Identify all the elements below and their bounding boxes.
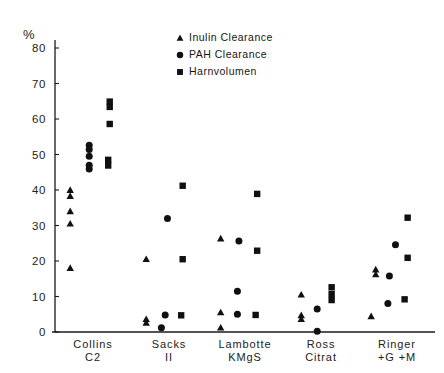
- y-tick-label: 70: [32, 78, 46, 90]
- x-axis-category-label: SacksII: [152, 338, 186, 363]
- data-point-triangle: [143, 255, 150, 262]
- data-point-square: [328, 284, 334, 290]
- series-group: [105, 98, 411, 318]
- data-point-circle: [234, 288, 241, 295]
- legend-item: Inulin Clearance: [177, 31, 273, 43]
- data-point-circle: [158, 324, 165, 331]
- category-label-line2: II: [165, 351, 173, 363]
- data-point-triangle: [217, 324, 224, 331]
- data-point-square: [179, 183, 185, 189]
- data-point-triangle: [367, 313, 374, 320]
- legend-item: Harnvolumen: [177, 65, 257, 77]
- y-tick-label: 40: [32, 184, 46, 196]
- data-point-circle: [164, 215, 171, 222]
- data-point-triangle: [67, 186, 74, 193]
- data-point-triangle: [217, 235, 224, 242]
- legend: Inulin ClearancePAH ClearanceHarnvolumen: [177, 31, 273, 77]
- data-point-square: [328, 297, 334, 303]
- data-point-square: [328, 291, 334, 297]
- legend-item: PAH Clearance: [177, 48, 267, 60]
- x-axis-category-label: CollinsC2: [73, 338, 112, 363]
- scatter-plot-figure: 01020304050607080%CollinsC2SacksIILambot…: [0, 0, 444, 373]
- category-label-line2: KMgS: [228, 351, 262, 363]
- series-group: [86, 142, 399, 335]
- data-point-square: [401, 296, 407, 302]
- y-tick-label: 50: [32, 149, 46, 161]
- category-label-line1: Ross: [307, 338, 336, 350]
- category-label-line2: C2: [85, 351, 101, 363]
- data-point-triangle: [298, 291, 305, 298]
- y-tick-label: 10: [32, 291, 46, 303]
- data-point-triangle: [67, 220, 74, 227]
- data-points: [67, 98, 411, 334]
- legend-item-label: Inulin Clearance: [189, 31, 273, 43]
- data-point-circle: [86, 166, 93, 173]
- data-point-circle: [314, 328, 321, 335]
- category-label-line2: Citrat: [305, 351, 337, 363]
- legend-marker-square: [177, 69, 183, 75]
- legend-marker-triangle: [177, 34, 184, 40]
- data-point-square: [105, 162, 111, 168]
- plot-canvas: 01020304050607080%CollinsC2SacksIILambot…: [0, 0, 444, 373]
- data-point-square: [178, 312, 184, 318]
- data-point-triangle: [67, 192, 74, 199]
- data-point-square: [179, 256, 185, 262]
- legend-item-label: Harnvolumen: [189, 65, 257, 77]
- y-axis-unit-label: %: [23, 27, 35, 42]
- data-point-circle: [392, 241, 399, 248]
- data-point-circle: [234, 311, 241, 318]
- category-label-line1: Collins: [73, 338, 112, 350]
- data-point-square: [107, 121, 113, 127]
- data-point-circle: [86, 153, 93, 160]
- x-axis-category-label: LambotteKMgS: [218, 338, 271, 363]
- data-point-square: [252, 312, 258, 318]
- data-point-square: [105, 157, 111, 163]
- data-point-square: [404, 214, 410, 220]
- data-point-square: [254, 248, 260, 254]
- x-axis-category-label: RossCitrat: [305, 338, 337, 363]
- category-label-line1: Lambotte: [218, 338, 271, 350]
- category-label-line1: Ringer: [378, 338, 416, 350]
- y-tick-label: 0: [39, 326, 46, 338]
- y-tick-label: 20: [32, 255, 46, 267]
- data-point-square: [404, 255, 410, 261]
- legend-marker-circle: [177, 52, 183, 58]
- data-point-circle: [162, 311, 169, 318]
- y-tick-label: 30: [32, 220, 46, 232]
- category-label-line1: Sacks: [152, 338, 186, 350]
- data-point-circle: [314, 305, 321, 312]
- x-axis-category-labels: CollinsC2SacksIILambotteKMgSRossCitratRi…: [73, 338, 416, 363]
- series-group: [67, 186, 380, 330]
- data-point-circle: [86, 146, 93, 153]
- y-tick-label: 60: [32, 113, 46, 125]
- axes: [52, 40, 435, 332]
- data-point-triangle: [67, 264, 74, 271]
- data-point-circle: [386, 272, 393, 279]
- data-point-triangle: [143, 319, 150, 326]
- y-tick-label: 80: [32, 42, 46, 54]
- legend-item-label: PAH Clearance: [189, 48, 267, 60]
- data-point-triangle: [217, 309, 224, 316]
- data-point-circle: [235, 238, 242, 245]
- data-point-square: [107, 104, 113, 110]
- category-label-line2: +G +M: [378, 351, 416, 363]
- data-point-square: [254, 191, 260, 197]
- data-point-triangle: [67, 207, 74, 214]
- x-axis-category-label: Ringer+G +M: [378, 338, 416, 363]
- data-point-circle: [384, 300, 391, 307]
